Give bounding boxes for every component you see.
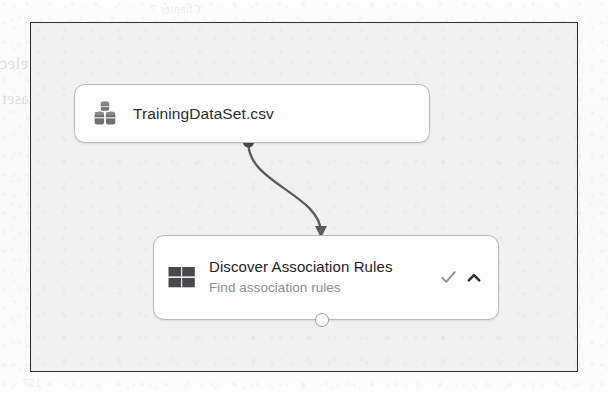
ghost-text-footer: 157 (22, 376, 41, 391)
module-output-port[interactable] (315, 313, 329, 327)
ghost-text-header: Chapter 7 (150, 2, 201, 17)
grid-module-icon (168, 264, 196, 292)
experiment-designer-canvas[interactable]: TrainingDataSet.csv Discover Association… (30, 22, 578, 372)
connector-layer (31, 23, 579, 373)
check-icon[interactable] (440, 269, 457, 286)
module-node-subtitle: Find association rules (209, 279, 440, 297)
module-node-actions (440, 269, 481, 286)
dataset-to-module-connector (249, 144, 322, 233)
module-node[interactable]: Discover Association Rules Find associat… (153, 235, 499, 320)
database-icon (90, 99, 120, 129)
dataset-node[interactable]: TrainingDataSet.csv (74, 84, 430, 143)
module-node-title: Discover Association Rules (209, 258, 440, 277)
chevron-up-icon[interactable] (467, 271, 481, 285)
module-node-body: Discover Association Rules Find associat… (209, 258, 440, 296)
dataset-node-title: TrainingDataSet.csv (133, 105, 274, 123)
